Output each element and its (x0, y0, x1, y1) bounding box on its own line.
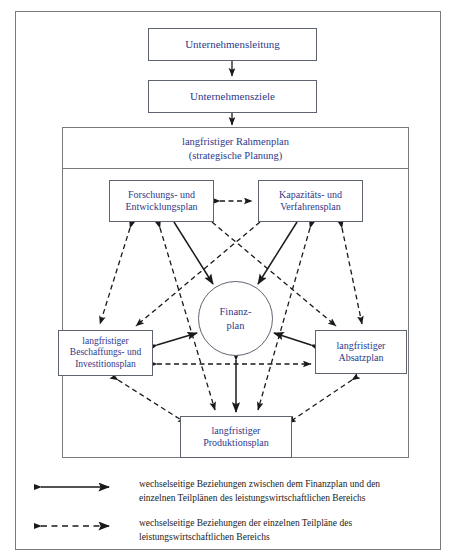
node-produktionsplan[interactable]: langfristiger Produktionsplan (180, 416, 292, 458)
node-rahmenplan-label: langfristiger Rahmenplan (strategische P… (182, 135, 289, 162)
legend-item-text: wechselseitige Beziehungen zwischen dem … (139, 478, 424, 506)
node-unternehmensziele-label: Unternehmensziele (149, 90, 316, 103)
node-kapazitaets-verfahrensplan[interactable]: Kapazitäts- und Verfahrensplan (258, 180, 363, 222)
double-arrow-dashed-icon (34, 519, 116, 533)
node-unternehmensziele[interactable]: Unternehmensziele (148, 80, 317, 113)
node-forschungs-entwicklungsplan[interactable]: Forschungs- und Entwicklungsplan (109, 180, 214, 222)
node-absatzplan-label: langfristiger Absatzplan (316, 340, 406, 364)
node-finanzplan[interactable]: Finanz- plan (198, 281, 273, 356)
double-arrow-solid-icon (34, 480, 116, 494)
node-beschaffungs-investitionsplan[interactable]: langfristiger Beschaffungs- und Investit… (58, 330, 153, 376)
node-forschungs-entwicklungsplan-label: Forschungs- und Entwicklungsplan (110, 189, 213, 213)
node-kapazitaets-verfahrensplan-label: Kapazitäts- und Verfahrensplan (259, 189, 362, 213)
diagram-page: Unternehmensleitung Unternehmensziele la… (0, 0, 456, 559)
band-divider (62, 168, 409, 169)
node-beschaffungs-investitionsplan-label: langfristiger Beschaffungs- und Investit… (59, 336, 152, 371)
legend-item-text: wechselseitige Beziehungen der einzelnen… (139, 517, 424, 545)
node-absatzplan[interactable]: langfristiger Absatzplan (315, 330, 407, 374)
node-rahmenplan: langfristiger Rahmenplan (strategische P… (62, 129, 409, 168)
legend: wechselseitige Beziehungen zwischen dem … (34, 478, 424, 556)
node-unternehmensleitung-label: Unternehmensleitung (149, 38, 316, 51)
node-produktionsplan-label: langfristiger Produktionsplan (181, 425, 291, 449)
legend-item: wechselseitige Beziehungen zwischen dem … (34, 478, 424, 508)
node-finanzplan-label: Finanz- plan (219, 305, 251, 331)
legend-item: wechselseitige Beziehungen der einzelnen… (34, 517, 424, 547)
node-unternehmensleitung[interactable]: Unternehmensleitung (148, 28, 317, 61)
